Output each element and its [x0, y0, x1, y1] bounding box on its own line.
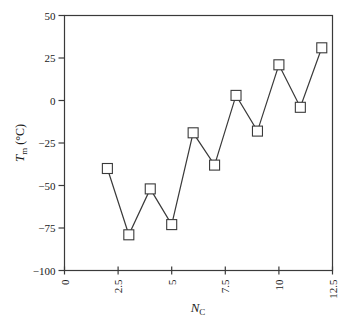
square-marker	[188, 128, 198, 138]
x-axis-title: NC	[190, 300, 206, 317]
square-marker	[102, 164, 112, 174]
y-axis-title: Tm (°C)	[12, 124, 29, 162]
square-marker	[231, 90, 241, 100]
x-tick-label: 12.5	[327, 279, 339, 299]
x-axis-ticks: 02.557.51012.5	[59, 267, 339, 299]
y-tick-label: −75	[38, 222, 56, 234]
melting-point-chart: 50250−25−50−75−100 02.557.51012.5 NC Tm …	[0, 0, 344, 321]
y-tick-label: 25	[45, 52, 57, 64]
square-marker	[317, 43, 327, 53]
square-marker	[167, 220, 177, 230]
y-tick-label: −25	[38, 137, 56, 149]
square-marker	[210, 160, 220, 170]
x-tick-label: 0	[59, 279, 71, 285]
square-marker	[252, 126, 262, 136]
square-marker	[145, 184, 155, 194]
series-line	[107, 48, 321, 235]
y-tick-label: 0	[50, 95, 56, 107]
y-tick-label: 50	[45, 10, 57, 22]
plot-frame	[65, 16, 333, 271]
y-tick-label: −100	[33, 265, 56, 277]
y-axis-ticks: 50250−25−50−75−100	[33, 10, 65, 277]
x-tick-label: 5	[166, 279, 178, 285]
square-marker	[274, 60, 284, 70]
x-tick-label: 7.5	[219, 279, 231, 293]
x-tick-label: 2.5	[112, 279, 124, 293]
y-tick-label: −50	[38, 180, 56, 192]
square-marker	[295, 102, 305, 112]
x-tick-label: 10	[273, 279, 285, 291]
square-marker	[124, 230, 134, 240]
data-series	[102, 43, 326, 240]
